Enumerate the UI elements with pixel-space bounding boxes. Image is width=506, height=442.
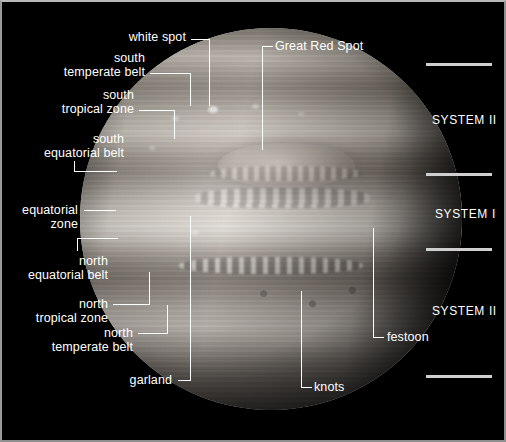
label-south-temperate-belt-line1: south — [22, 52, 145, 66]
leader-south-tropical-zone-vertical — [174, 110, 175, 139]
system-divider-rule-2 — [426, 173, 492, 176]
leader-north-temperate-belt-vertical — [167, 305, 168, 334]
leader-south-tropical-zone-horizontal — [139, 110, 175, 111]
system-label-middle: SYSTEM I — [435, 207, 496, 221]
system-divider-rule-1 — [426, 63, 492, 66]
leader-north-temperate-belt-horizontal — [138, 333, 168, 334]
system-divider-rule-3 — [426, 248, 492, 251]
system-divider-rule-4 — [426, 375, 492, 378]
label-north-temperate-belt-line1: north — [2, 327, 133, 341]
label-south-equatorial-belt-line1: south — [12, 133, 124, 147]
leader-north-equatorial-belt-horizontal — [77, 238, 118, 239]
leader-equatorial-zone-horizontal — [84, 210, 116, 211]
leader-great-red-spot-horizontal — [262, 46, 273, 47]
leader-north-tropical-zone-horizontal — [113, 304, 150, 305]
leader-festoon-horizontal — [373, 337, 384, 338]
label-north-equatorial-belt-line1: north — [2, 255, 108, 269]
leader-knots-horizontal — [301, 387, 312, 388]
leader-south-temperate-belt-horizontal — [150, 73, 191, 74]
leader-north-tropical-zone-vertical — [149, 272, 150, 305]
label-north-tropical-zone-line1: north — [2, 298, 108, 312]
leader-south-temperate-belt-vertical — [190, 73, 191, 106]
label-great-red-spot: Great Red Spot — [275, 40, 415, 54]
leader-great-red-spot-vertical — [262, 46, 263, 150]
label-white-spot: white spot — [62, 31, 186, 45]
label-south-tropical-zone-line1: south — [12, 89, 134, 103]
label-north-equatorial-belt-line2: equatorial belt — [2, 269, 108, 283]
label-south-temperate-belt-line2: temperate belt — [22, 66, 145, 80]
leader-festoon-vertical — [373, 228, 374, 338]
annotation-layer: white spot Great Red Spot south temperat… — [2, 2, 504, 440]
label-equatorial-zone-line1: equatorial — [2, 204, 78, 218]
label-north-temperate-belt-line2: temperate belt — [2, 341, 133, 355]
system-label-bottom: SYSTEM II — [432, 304, 497, 318]
label-south-equatorial-belt-line2: equatorial belt — [12, 147, 124, 161]
label-south-tropical-zone-line2: tropical zone — [12, 103, 134, 117]
label-equatorial-zone-line2: zone — [2, 218, 78, 232]
system-label-top: SYSTEM II — [432, 113, 497, 127]
label-garland: garland — [62, 374, 172, 388]
leader-white-spot-vertical — [209, 39, 210, 106]
jupiter-diagram-figure: white spot Great Red Spot south temperat… — [0, 0, 506, 442]
leader-north-equatorial-belt-vertical — [77, 238, 78, 251]
leader-south-equatorial-belt-horizontal — [74, 171, 117, 172]
leader-white-spot-horizontal — [191, 39, 210, 40]
label-knots: knots — [314, 381, 394, 395]
label-north-tropical-zone-line2: tropical zone — [2, 312, 108, 326]
label-festoon: festoon — [387, 331, 477, 345]
leader-garland-vertical — [190, 216, 191, 381]
leader-knots-vertical — [301, 291, 302, 388]
